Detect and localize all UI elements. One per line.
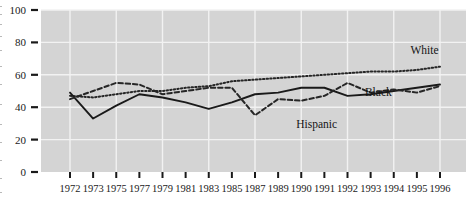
x-tick-label-1983: 1983	[198, 183, 219, 194]
x-tick-label-1987: 1987	[245, 183, 266, 194]
x-tick-label-1994: 1994	[383, 183, 405, 194]
y-tick-label-100: 100	[10, 4, 27, 16]
x-tick-label-1990: 1990	[291, 183, 312, 194]
x-tick-label-1975: 1975	[106, 183, 127, 194]
y-tick-label-40: 40	[15, 101, 27, 113]
chart-canvas: 020406080100 197219731975197719791981198…	[0, 0, 476, 204]
y-tick-label-20: 20	[15, 134, 27, 146]
series-label-white: White	[411, 44, 439, 56]
x-tick-label-1996: 1996	[430, 183, 451, 194]
x-tick-label-1979: 1979	[152, 183, 173, 194]
line-chart: 020406080100 197219731975197719791981198…	[0, 0, 476, 204]
x-tick-label-1993: 1993	[360, 183, 381, 194]
x-tick-label-1973: 1973	[83, 183, 104, 194]
series-label-hispanic: Hispanic	[296, 118, 337, 131]
x-tick-label-1992: 1992	[337, 183, 358, 194]
series-label-black: Black	[365, 86, 392, 98]
x-tick-label-1981: 1981	[175, 183, 196, 194]
x-tick-label-1991: 1991	[314, 183, 335, 194]
y-tick-label-0: 0	[21, 166, 27, 178]
x-tick-label-1995: 1995	[406, 183, 427, 194]
x-tick-label-1989: 1989	[268, 183, 289, 194]
y-tick-label-60: 60	[15, 69, 27, 81]
x-tick-label-1977: 1977	[129, 183, 150, 194]
x-tick-label-1985: 1985	[221, 183, 242, 194]
y-tick-label-80: 80	[15, 36, 27, 48]
x-tick-label-1972: 1972	[60, 183, 81, 194]
